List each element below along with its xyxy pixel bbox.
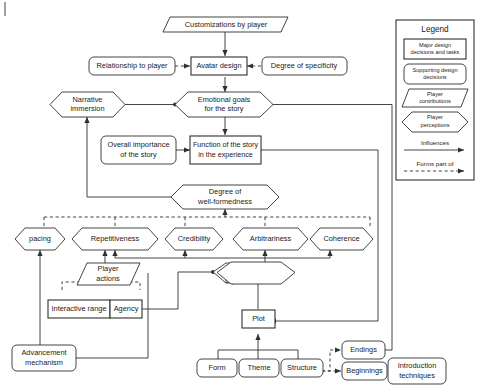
node-label: Advancement [21, 348, 66, 357]
node-degree-of-specificity[interactable]: Degree of specificity [262, 57, 347, 75]
node-label: of the story [120, 150, 157, 159]
node-plot-line-outer-shape [217, 262, 295, 284]
node-form[interactable]: Form [197, 359, 237, 377]
connector-emotional-endings-rail [273, 105, 392, 351]
node-theme[interactable]: Theme [239, 359, 279, 377]
node-label: Emotional goals [198, 95, 251, 104]
node-arbitrariness[interactable]: Arbitrariness [233, 228, 308, 250]
legend-label: Major design [419, 42, 451, 48]
node-label: actions [96, 274, 120, 283]
node-plot[interactable]: Plot [242, 310, 275, 328]
node-label: Degree of specificity [271, 61, 338, 70]
node-avatar-design[interactable]: Avatar design [191, 57, 247, 75]
connector-agency-plotline [142, 272, 213, 309]
node-label: Agency [114, 304, 139, 313]
legend-label: Supporting design [412, 67, 457, 73]
node-label: for the story [204, 104, 243, 113]
node-label: Arbitrariness [250, 234, 292, 243]
node-label: Introduction [398, 361, 437, 370]
legend-label: decisions and tasks [411, 49, 460, 55]
legend-label: perceptions [421, 122, 450, 128]
node-structure[interactable]: Structure [281, 359, 323, 377]
figure-canvas: Customizations by player Relationship to… [0, 0, 482, 391]
node-degree-of-well-formedness[interactable]: Degree of well-formedness [171, 185, 279, 209]
legend-label: Influences [421, 139, 449, 146]
legend-item-major-design: Major design decisions and tasks [404, 39, 466, 59]
node-interactive-range[interactable]: Interactive range [48, 300, 110, 318]
node-label: techniques [399, 371, 435, 380]
node-label: Form [208, 363, 225, 372]
node-endings[interactable]: Endings [342, 341, 385, 359]
node-label: mechanism [25, 358, 63, 367]
connector-structure-endings [322, 350, 341, 371]
node-label: Plot [252, 314, 265, 323]
legend-item-player-contributions: Player contributions [402, 89, 468, 107]
node-label: Structure [287, 363, 317, 372]
node-narrative-immersion[interactable]: Narrative immersion [50, 92, 125, 117]
node-beginnings[interactable]: Beginnings [342, 362, 387, 380]
legend-panel: Legend Major design decisions and tasks … [396, 20, 474, 180]
node-label: Customizations by player [185, 20, 268, 29]
node-emotional-goals[interactable]: Emotional goals for the story [175, 92, 273, 117]
node-label: Repetitiveness [91, 234, 140, 243]
node-label: pacing [29, 234, 51, 243]
node-label: Function of the story [193, 140, 259, 149]
node-agency[interactable]: Agency [110, 300, 142, 318]
node-label: Degree of [209, 187, 242, 196]
legend-item-player-perceptions: Player perceptions [402, 112, 468, 132]
node-coherence[interactable]: Coherence [310, 228, 373, 250]
legend-label: Forms part of [417, 160, 454, 167]
node-label: Coherence [323, 234, 359, 243]
node-advancement-mechanism[interactable]: Advancement mechanism [12, 345, 76, 371]
node-relationship-to-player[interactable]: Relationship to player [89, 57, 175, 75]
node-overall-importance[interactable]: Overall importance of the story [101, 136, 176, 164]
node-label: well-formedness [197, 197, 252, 206]
node-function-of-story[interactable]: Function of the story in the experience [190, 136, 261, 164]
node-label: in the experience [198, 150, 253, 159]
legend-item-supporting-design: Supporting design decisions [404, 64, 466, 84]
node-label: Interactive range [51, 304, 106, 313]
node-label: Credibility [178, 234, 211, 243]
legend-label: decisions [423, 74, 447, 80]
node-label: Narrative [73, 95, 103, 104]
node-label: immersion [70, 104, 104, 113]
legend-label: Player [427, 114, 443, 120]
node-credibility[interactable]: Credibility [165, 228, 223, 250]
node-label: Relationship to player [96, 61, 168, 70]
node-customizations-by-player[interactable]: Customizations by player [163, 17, 288, 32]
node-repetitiveness[interactable]: Repetitiveness [72, 228, 158, 250]
node-label: Beginnings [346, 366, 383, 375]
node-label: Avatar design [196, 61, 241, 70]
node-label: Endings [350, 345, 377, 354]
node-introduction-techniques[interactable]: Introduction techniques [388, 358, 446, 384]
legend-label: contributions [419, 98, 451, 104]
node-player-actions[interactable]: Player actions [77, 263, 140, 285]
node-pacing[interactable]: pacing [15, 228, 65, 250]
flow-diagram: Customizations by player Relationship to… [0, 0, 482, 391]
node-label: Player [98, 264, 119, 273]
legend-title: Legend [421, 25, 449, 34]
node-label: Overall importance [107, 140, 169, 149]
node-label: Theme [247, 363, 270, 372]
legend-label: Player [427, 91, 443, 97]
